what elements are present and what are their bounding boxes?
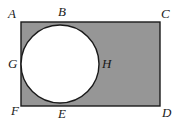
vertex-label-c: C [161,7,170,20]
vertex-label-a: A [8,7,16,20]
vertex-label-g: G [8,57,17,70]
vertex-label-b: B [58,5,66,18]
vertex-label-e: E [58,107,66,120]
vertex-label-f: F [11,104,19,117]
vertex-label-h: H [102,57,111,70]
geometry-figure: A B C D E F G H [0,0,178,126]
inscribed-circle [21,25,99,103]
vertex-label-d: D [162,106,171,119]
figure-canvas [0,0,178,126]
